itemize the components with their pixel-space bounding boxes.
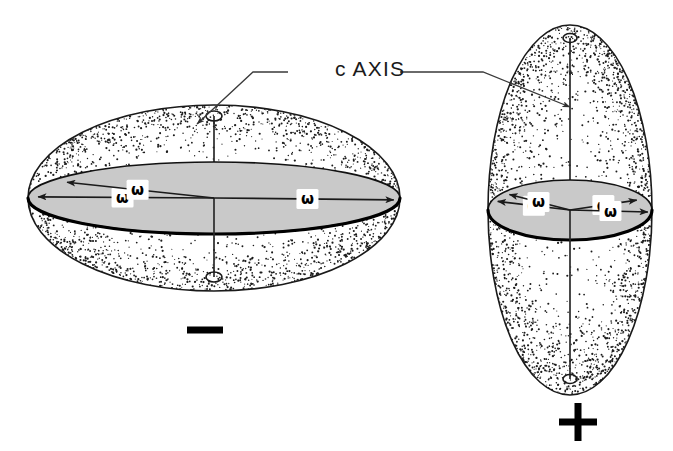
minus-bar: [187, 327, 223, 334]
omega-label: ω: [604, 203, 617, 221]
c-axis-label: c AXIS: [335, 57, 405, 80]
plus-vertical-bar: [575, 403, 582, 441]
minus-sign: [187, 327, 223, 334]
omega-label: ω: [532, 193, 545, 211]
omega-label: ω: [301, 190, 314, 208]
figure-canvas: ωωω ωωωω c AXIS: [0, 0, 673, 451]
omega-label: ω: [131, 181, 144, 199]
uniaxial-indicatrix-figure: ωωω ωωωω c AXIS: [0, 0, 673, 451]
